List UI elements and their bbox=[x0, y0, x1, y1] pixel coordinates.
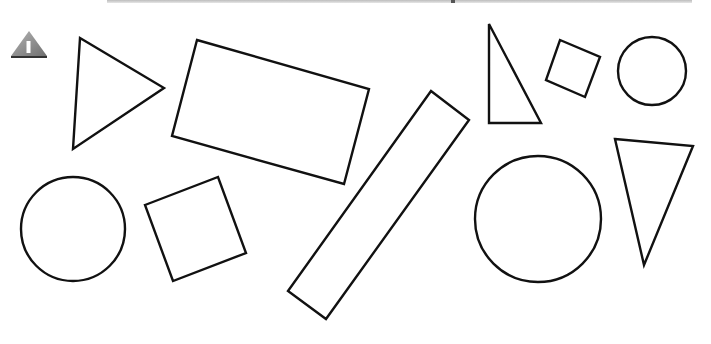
shapes-canvas bbox=[0, 0, 711, 344]
large-circle bbox=[475, 156, 601, 282]
left-circle bbox=[21, 177, 125, 281]
small-tilted-square bbox=[546, 40, 600, 97]
right-pointing-triangle bbox=[73, 38, 164, 149]
right-angle-triangle bbox=[489, 24, 541, 123]
tilted-square bbox=[145, 177, 246, 281]
small-circle bbox=[618, 37, 686, 105]
large-tilted-rectangle bbox=[172, 40, 369, 184]
downward-triangle bbox=[615, 139, 693, 265]
